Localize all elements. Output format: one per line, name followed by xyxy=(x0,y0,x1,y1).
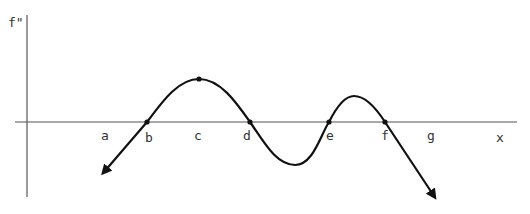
point-e xyxy=(326,119,331,124)
x-axis-label: x xyxy=(496,130,504,145)
point-f xyxy=(382,119,387,124)
f-double-prime-graph: f" x a b c d e f g xyxy=(0,0,530,214)
label-f: f xyxy=(381,128,389,143)
label-c: c xyxy=(194,128,202,143)
label-g: g xyxy=(427,128,435,143)
point-b xyxy=(144,119,149,124)
label-d: d xyxy=(243,128,251,143)
y-axis-label: f" xyxy=(8,15,24,30)
label-a: a xyxy=(101,128,109,143)
label-e: e xyxy=(326,128,334,143)
point-c-peak xyxy=(196,76,201,81)
label-b: b xyxy=(145,130,153,145)
point-d xyxy=(247,119,252,124)
